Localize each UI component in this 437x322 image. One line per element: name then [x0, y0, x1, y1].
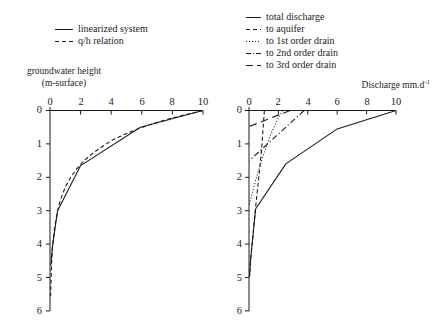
legend-item: total discharge	[246, 11, 338, 23]
right-x-axis-title: Discharge mm.d-1	[336, 79, 430, 91]
series-to-aquifer	[250, 111, 265, 277]
legend-line-swatch	[55, 41, 73, 42]
left-x-tick-label: 6	[130, 96, 154, 108]
left-x-tick-label: 10	[191, 96, 215, 108]
right-y-tick-label: 5	[226, 272, 242, 284]
left-y-tick-label: 4	[26, 238, 42, 250]
left-x-tick-label: 8	[160, 96, 184, 108]
right-x-axis-title-superscript: -1	[424, 78, 430, 86]
left-y-tick-label: 6	[26, 305, 42, 317]
left-y-tick-label: 2	[26, 171, 42, 183]
right-x-tick-label: 2	[266, 96, 290, 108]
right-x-tick-label: 8	[355, 96, 379, 108]
chart-canvas	[0, 0, 437, 322]
legend-label: to 3rd order drain	[266, 59, 336, 71]
left-x-tick-label: 2	[69, 96, 93, 108]
legend-line-swatch	[246, 53, 261, 54]
series-to-2nd-order-drain	[249, 111, 304, 161]
left-y-tick-label: 1	[26, 138, 42, 150]
legend-line-swatch	[246, 29, 261, 30]
left-y-axis-title: groundwater height (m-surface)	[16, 65, 112, 89]
legend-item: to 1st order drain	[246, 35, 338, 47]
series-q-h-relation	[51, 111, 203, 296]
right-x-tick-label: 6	[325, 96, 349, 108]
series-total-discharge	[250, 111, 396, 277]
right-y-tick-label: 3	[226, 205, 242, 217]
right-x-tick-label: 4	[296, 96, 320, 108]
left-x-tick-label: 4	[99, 96, 123, 108]
legend-line-swatch	[246, 17, 261, 18]
left-legend: linearized system q/h relation	[55, 23, 148, 47]
legend-label: linearized system	[78, 23, 148, 35]
right-y-tick-label: 0	[226, 104, 242, 116]
legend-line-swatch	[55, 29, 73, 30]
legend-item: to aquifer	[246, 23, 338, 35]
left-y-tick-label: 0	[26, 104, 42, 116]
legend-item: q/h relation	[55, 35, 148, 47]
series-to-3rd-order-drain	[249, 111, 290, 127]
right-x-axis-title-text: Discharge mm.d	[362, 80, 425, 90]
right-legend: total discharge to aquifer to 1st order …	[246, 11, 338, 71]
legend-label: to aquifer	[266, 23, 305, 35]
legend-line-swatch	[246, 41, 261, 42]
left-y-axis-title-line1: groundwater height	[16, 65, 112, 77]
legend-label: total discharge	[266, 11, 324, 23]
legend-label: to 1st order drain	[266, 35, 335, 47]
legend-line-swatch	[246, 65, 261, 66]
legend-item: to 3rd order drain	[246, 59, 338, 71]
figure: linearized system q/h relation total dis…	[0, 0, 437, 322]
legend-item: linearized system	[55, 23, 148, 35]
left-y-tick-label: 3	[26, 205, 42, 217]
right-y-tick-label: 1	[226, 138, 242, 150]
left-y-axis-title-line2: (m-surface)	[16, 77, 112, 89]
legend-label: q/h relation	[78, 35, 124, 47]
left-y-tick-label: 5	[26, 272, 42, 284]
legend-item: to 2nd order drain	[246, 47, 338, 59]
right-y-tick-label: 6	[226, 305, 242, 317]
right-y-tick-label: 4	[226, 238, 242, 250]
legend-label: to 2nd order drain	[266, 47, 338, 59]
right-x-tick-label: 10	[384, 96, 408, 108]
right-y-tick-label: 2	[226, 171, 242, 183]
